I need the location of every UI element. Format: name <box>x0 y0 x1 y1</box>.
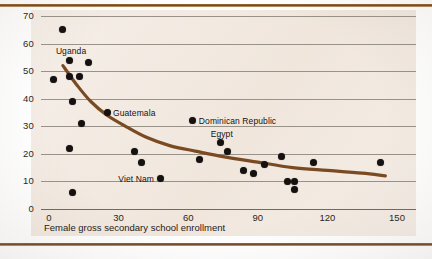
scatter-point <box>377 159 384 166</box>
scatter-point <box>131 148 138 155</box>
scatter-point <box>310 159 317 166</box>
scatter-point <box>50 76 57 83</box>
point-label: Egypt <box>211 129 233 139</box>
scatter-point <box>78 120 85 127</box>
scatter-point <box>250 170 257 177</box>
point-label: Dominican Republic <box>199 116 276 126</box>
scatter-point <box>157 175 164 182</box>
scatter-point <box>278 153 285 160</box>
point-label: Uganda <box>56 46 86 56</box>
top-rule-divider <box>0 4 432 7</box>
scatter-point <box>138 159 145 166</box>
scatter-point <box>104 109 111 116</box>
point-label: Viet Nam <box>118 174 154 184</box>
scatter-point <box>69 98 76 105</box>
point-label: Guatemala <box>113 108 155 118</box>
scatter-point <box>224 148 231 155</box>
scatter-point <box>76 73 83 80</box>
scatter-point <box>66 57 73 64</box>
scatter-point <box>69 189 76 196</box>
chart-figure: 010203040506070 0306090120150 UgandaGuat… <box>0 0 432 259</box>
x-axis-title: Female gross secondary school enrollment <box>44 222 225 233</box>
bottom-rule-divider <box>0 243 432 246</box>
